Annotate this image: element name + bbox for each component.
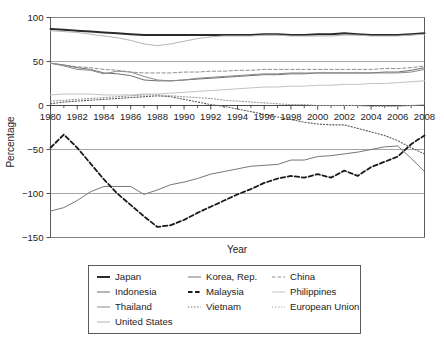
x-tick-label: 1986 — [120, 111, 141, 122]
y-tick-label: −150 — [22, 232, 44, 243]
x-tick-label: 1982 — [67, 111, 88, 122]
chart-legend: JapanIndonesiaThailandUnited StatesKorea… — [89, 266, 361, 334]
legend-label: Thailand — [115, 301, 152, 312]
x-tick-label: 1984 — [93, 111, 115, 122]
x-tick-label: 1998 — [280, 111, 301, 122]
legend-label: United States — [115, 316, 173, 327]
x-tick-label: 1980 — [40, 111, 61, 122]
x-tick-label: 2008 — [414, 111, 435, 122]
y-tick-label: −50 — [27, 144, 43, 155]
legend-label: China — [290, 271, 316, 282]
y-tick-label: −100 — [22, 188, 44, 199]
y-tick-label: 50 — [33, 56, 44, 67]
x-tick-label: 1990 — [173, 111, 194, 122]
x-tick-label: 2002 — [334, 111, 355, 122]
x-tick-label: 1992 — [200, 111, 221, 122]
x-tick-label: 1988 — [147, 111, 168, 122]
x-tick-label: 1994 — [227, 111, 249, 122]
legend-label: Malaysia — [206, 286, 245, 297]
y-axis-title: Percentage — [5, 116, 16, 168]
chart-figure: 100500−50−100−150 1980198219841986198819… — [0, 0, 444, 344]
y-tick-label: 0 — [38, 100, 43, 111]
x-tick-label: 2000 — [307, 111, 328, 122]
x-tick-label: 1996 — [254, 111, 275, 122]
x-axis-title: Year — [227, 244, 248, 255]
x-axis-tick-labels: 1980198219841986198819901992199419961998… — [40, 111, 435, 122]
legend-label: Indonesia — [115, 286, 157, 297]
chart-svg: 100500−50−100−150 1980198219841986198819… — [0, 0, 444, 344]
legend-label: Vietnam — [206, 301, 241, 312]
legend-label: European Union — [290, 301, 359, 312]
x-tick-label: 2006 — [387, 111, 408, 122]
legend-label: Philippines — [290, 286, 337, 297]
x-tick-label: 2004 — [360, 111, 382, 122]
legend-label: Korea, Rep. — [206, 271, 257, 282]
legend-label: Japan — [115, 271, 141, 282]
y-tick-label: 100 — [27, 12, 43, 23]
